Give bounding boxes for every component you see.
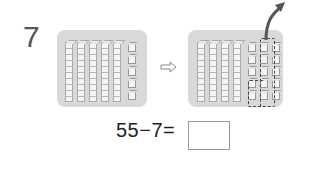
ten-rod [89, 42, 97, 102]
question-number: 7 [23, 22, 40, 52]
ten-rod [209, 42, 217, 102]
unit-cube [128, 44, 136, 52]
base-ten-model-before [57, 30, 147, 107]
ten-rod [233, 42, 241, 102]
unit-cube [248, 68, 256, 76]
unit-cube [128, 56, 136, 64]
ten-rod [197, 42, 205, 102]
unit-cube [248, 56, 256, 64]
right-arrow-icon [160, 61, 178, 73]
curved-up-arrow-icon [258, 0, 288, 42]
ten-rod [77, 42, 85, 102]
unit-cube [128, 68, 136, 76]
unit-cube [128, 92, 136, 100]
equation-text: 55−7= [116, 119, 175, 142]
ten-rod [221, 42, 229, 102]
removed-group-outline [248, 80, 264, 107]
ten-rod [113, 42, 121, 102]
ten-rod [101, 42, 109, 102]
unit-cube [128, 80, 136, 88]
answer-input-box[interactable] [188, 121, 230, 150]
ten-rod [65, 42, 73, 102]
unit-cube [248, 44, 256, 52]
